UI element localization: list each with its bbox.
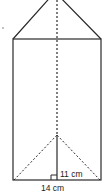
right-angle-marker (51, 175, 57, 180)
stray-dot (2, 27, 3, 28)
height-label: 11 cm (60, 170, 83, 179)
base-label: 14 cm (41, 184, 64, 193)
prism-net-diagram (0, 0, 106, 195)
inner-triangle-left-side (14, 135, 57, 180)
